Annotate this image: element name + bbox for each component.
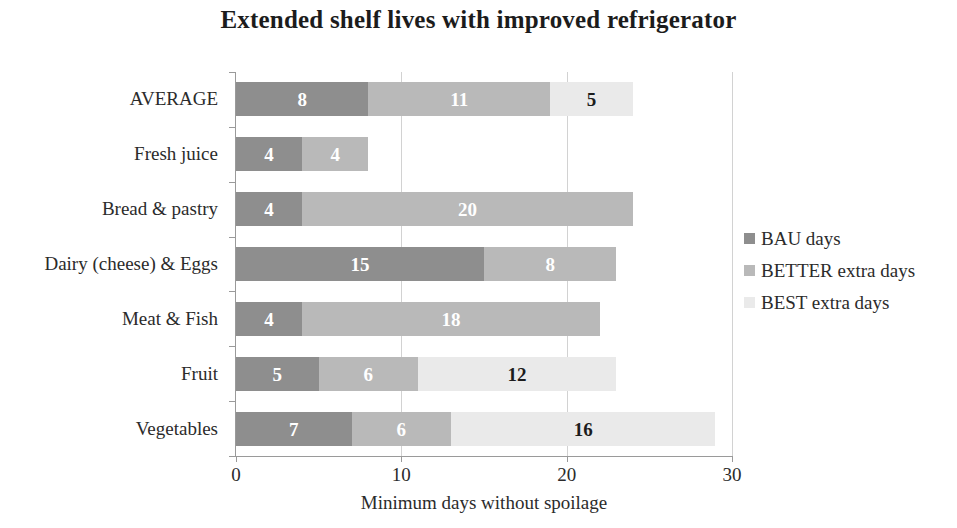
- x-axis-title: Minimum days without spoilage: [235, 492, 733, 514]
- legend-item[interactable]: BAU days: [744, 222, 915, 254]
- bar-value-label: 8: [545, 255, 555, 274]
- x-axis-tick-30: [732, 456, 733, 462]
- bar-value-label: 12: [508, 364, 527, 383]
- category-label-bread-pastry: Bread & pastry: [102, 199, 218, 218]
- chart-title: Extended shelf lives with improved refri…: [0, 6, 957, 34]
- x-axis-tick-label-10: 10: [371, 464, 431, 486]
- y-axis-tick: [229, 237, 235, 238]
- y-axis-tick: [229, 72, 235, 73]
- bar-segment[interactable]: 4: [302, 137, 368, 171]
- bar-segment[interactable]: 6: [352, 412, 451, 446]
- bar-value-label: 11: [450, 90, 468, 109]
- y-axis-tick: [229, 401, 235, 402]
- x-axis-tick-label-20: 20: [537, 464, 597, 486]
- bar-value-label: 6: [397, 419, 407, 438]
- bar-value-label: 4: [264, 200, 274, 219]
- bar-value-label: 16: [574, 419, 593, 438]
- bar-value-label: 15: [351, 255, 370, 274]
- bar-value-label: 6: [364, 364, 374, 383]
- bar-segment[interactable]: 4: [236, 192, 302, 226]
- bar-segment[interactable]: 4: [236, 302, 302, 336]
- bar-value-label: 20: [458, 200, 477, 219]
- category-label-fresh-juice: Fresh juice: [134, 144, 218, 163]
- x-axis-line: [235, 456, 733, 457]
- bar-value-label: 7: [289, 419, 299, 438]
- y-axis-tick: [229, 346, 235, 347]
- chart-container: Extended shelf lives with improved refri…: [0, 0, 957, 528]
- legend-swatch-icon: [744, 297, 755, 308]
- bar-segment[interactable]: 18: [302, 302, 600, 336]
- x-axis-tick-label-0: 0: [206, 464, 266, 486]
- bar-value-label: 18: [441, 309, 460, 328]
- bar-segment[interactable]: 15: [236, 247, 484, 281]
- y-axis-tick: [229, 456, 235, 457]
- legend-label: BETTER extra days: [761, 261, 915, 280]
- bar-segment[interactable]: 12: [418, 357, 616, 391]
- bar-segment[interactable]: 16: [451, 412, 716, 446]
- bar-value-label: 4: [330, 145, 340, 164]
- category-label-meat-fish: Meat & Fish: [122, 309, 218, 328]
- y-axis-tick: [229, 127, 235, 128]
- bar-segment[interactable]: 5: [236, 357, 319, 391]
- bar-segment[interactable]: 5: [550, 82, 633, 116]
- bar-value-label: 5: [587, 90, 597, 109]
- bar-segment[interactable]: 7: [236, 412, 352, 446]
- bar-value-label: 4: [264, 309, 274, 328]
- bar-segment[interactable]: 11: [368, 82, 550, 116]
- bar-row: 8115: [236, 82, 732, 116]
- bar-row: 158: [236, 247, 732, 281]
- legend-swatch-icon: [744, 265, 755, 276]
- category-label-average: AVERAGE: [130, 89, 218, 108]
- x-axis-tick-20: [567, 456, 568, 462]
- gridline-30: [732, 72, 733, 457]
- bar-row: 418: [236, 302, 732, 336]
- x-axis-tick-0: [236, 456, 237, 462]
- bar-segment[interactable]: 6: [319, 357, 418, 391]
- category-label-fruit: Fruit: [181, 364, 218, 383]
- y-axis-tick: [229, 182, 235, 183]
- bar-value-label: 5: [273, 364, 283, 383]
- category-label-vegetables: Vegetables: [136, 419, 218, 438]
- bar-segment[interactable]: 4: [236, 137, 302, 171]
- x-axis-tick-10: [401, 456, 402, 462]
- legend-swatch-icon: [744, 233, 755, 244]
- bar-value-label: 4: [264, 145, 274, 164]
- chart-legend: BAU daysBETTER extra daysBEST extra days: [744, 222, 915, 318]
- bar-segment[interactable]: 8: [236, 82, 368, 116]
- legend-item[interactable]: BETTER extra days: [744, 254, 915, 286]
- legend-label: BAU days: [761, 229, 841, 248]
- category-label-dairy-cheese-eggs: Dairy (cheese) & Eggs: [44, 254, 218, 273]
- y-axis-tick: [229, 291, 235, 292]
- bar-row: 5612: [236, 357, 732, 391]
- legend-item[interactable]: BEST extra days: [744, 286, 915, 318]
- bar-segment[interactable]: 8: [484, 247, 616, 281]
- bar-value-label: 8: [297, 90, 307, 109]
- bar-segment[interactable]: 20: [302, 192, 633, 226]
- bar-row: 7616: [236, 412, 732, 446]
- bar-row: 420: [236, 192, 732, 226]
- bar-row: 44: [236, 137, 732, 171]
- legend-label: BEST extra days: [761, 293, 889, 312]
- x-axis-tick-label-30: 30: [702, 464, 762, 486]
